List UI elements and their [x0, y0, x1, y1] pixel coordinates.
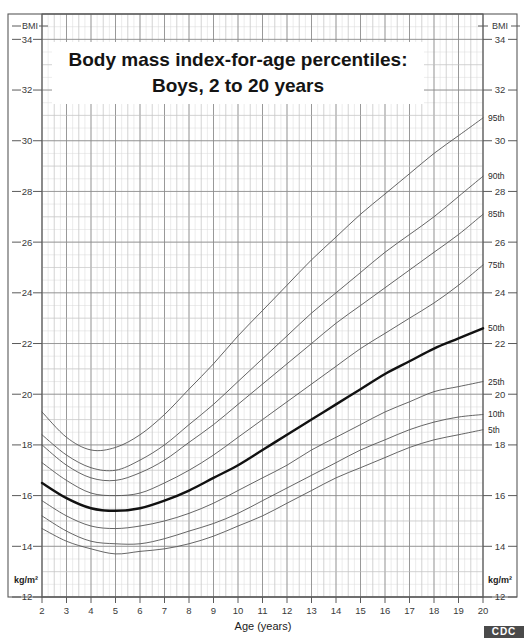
percentile-label-90th: 90th [488, 171, 505, 181]
title-block: Body mass index-for-age percentiles: Boy… [52, 42, 424, 104]
y-tick-label-left: 30 [22, 135, 33, 146]
percentile-label-95th: 95th [488, 113, 505, 123]
y-tick-label-right: 22 [495, 338, 506, 349]
y-tick-label-left: 28 [22, 186, 33, 197]
y-tick-label-right: 34 [495, 34, 506, 45]
x-tick-label: 6 [137, 605, 142, 616]
x-tick-label: 4 [88, 605, 93, 616]
y-tick-label-left: 22 [22, 338, 33, 349]
y-tick-label-right: 32 [495, 84, 506, 95]
x-tick-label: 8 [186, 605, 191, 616]
x-tick-label: 13 [306, 605, 317, 616]
percentile-label-25th: 25th [488, 377, 505, 387]
x-tick-label: 10 [233, 605, 244, 616]
percentile-label-50th: 50th [488, 323, 505, 333]
x-tick-label: 11 [258, 605, 268, 616]
percentile-label-75th: 75th [488, 260, 505, 270]
x-tick-label: 17 [404, 605, 415, 616]
x-tick-label: 20 [478, 605, 489, 616]
percentile-label-10th: 10th [488, 409, 505, 419]
y-tick-label-right: 28 [495, 186, 506, 197]
y-tick-label-right: 14 [495, 541, 506, 552]
y-axis-left-header: BMI [22, 21, 38, 31]
x-tick-label: 12 [282, 605, 293, 616]
y-tick-label-right: 24 [495, 287, 506, 298]
y-tick-label-left: 16 [22, 490, 33, 501]
y-tick-label-left: 20 [22, 389, 33, 400]
y-tick-label-left: 26 [22, 237, 33, 248]
y-tick-label-left: 14 [22, 541, 33, 552]
y-tick-label-right: 30 [495, 135, 506, 146]
y-tick-label-left: 18 [22, 439, 33, 450]
y-tick-label-right: 26 [495, 237, 506, 248]
y-tick-label-right: 20 [495, 389, 506, 400]
y-tick-label-left: 32 [22, 84, 33, 95]
x-tick-label: 9 [211, 605, 216, 616]
x-tick-label: 14 [331, 605, 342, 616]
x-tick-label: 16 [380, 605, 391, 616]
cdc-logo: CDC [484, 626, 524, 638]
y-axis-right-unit: kg/m² [488, 575, 512, 585]
y-tick-label-right: 16 [495, 490, 506, 501]
growth-chart: 95th90th85th75th50th25th10th5th 12141618… [0, 0, 526, 638]
x-tick-label: 15 [355, 605, 366, 616]
y-tick-label-right: 18 [495, 439, 506, 450]
y-tick-label-right: 12 [495, 591, 506, 602]
x-tick-label: 5 [113, 605, 118, 616]
y-tick-label-left: 12 [22, 591, 33, 602]
percentile-label-85th: 85th [488, 209, 505, 219]
x-tick-label: 19 [453, 605, 464, 616]
x-tick-label: 3 [64, 605, 69, 616]
y-axis-left-unit: kg/m² [14, 575, 38, 585]
percentile-label-5th: 5th [488, 425, 500, 435]
chart-title-line-1: Body mass index-for-age percentiles: [69, 49, 408, 70]
cdc-logo-text: CDC [484, 626, 524, 638]
x-tick-label: 7 [162, 605, 167, 616]
y-axis-right-header: BMI [492, 21, 508, 31]
x-tick-label: 2 [39, 605, 44, 616]
x-tick-label: 18 [429, 605, 440, 616]
chart-title-line-2: Boys, 2 to 20 years [152, 75, 324, 96]
bmi-chart-canvas: 95th90th85th75th50th25th10th5th 12141618… [0, 0, 526, 638]
x-axis-title: Age (years) [235, 620, 292, 632]
y-tick-label-left: 34 [22, 34, 33, 45]
y-tick-label-left: 24 [22, 287, 33, 298]
